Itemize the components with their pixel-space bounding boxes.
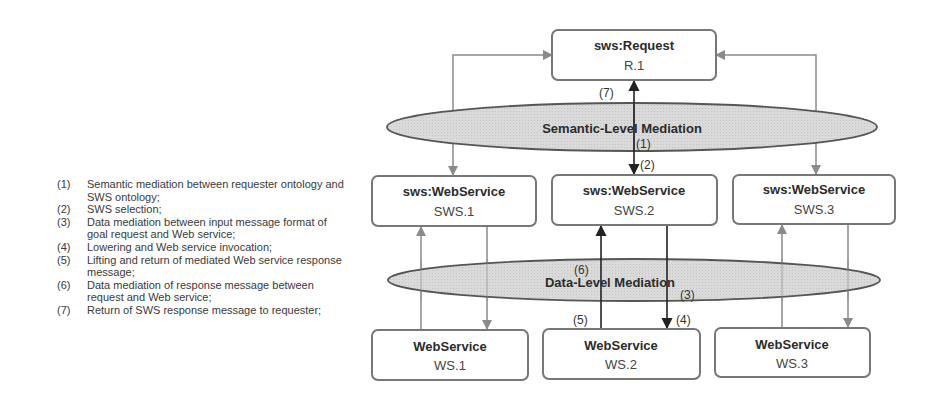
sws-title: sws:WebService [403, 184, 505, 199]
semantic-mediation-label: Semantic-Level Mediation [542, 121, 702, 136]
ws-id: WS.2 [605, 357, 637, 372]
ws-title: WebService [584, 338, 657, 353]
step-label-5: (5) [573, 313, 588, 327]
ws-title: WebService [755, 337, 828, 352]
step-label-1: (1) [636, 137, 651, 151]
sws-id: SWS.2 [614, 203, 654, 218]
step-label-4: (4) [676, 313, 691, 327]
ws-node-2: WebService WS.2 [543, 329, 700, 379]
sws-node-2: sws:WebService SWS.2 [552, 175, 717, 225]
ws-node-3: WebService WS.3 [715, 328, 870, 377]
mediation-diagram: sws:Request R.1 sws:WebService SWS.1 sws… [0, 0, 948, 405]
sws-id: SWS.1 [434, 204, 474, 219]
sws-node-3: sws:WebService SWS.3 [733, 175, 895, 224]
sws-title: sws:WebService [583, 183, 685, 198]
step-label-6: (6) [574, 263, 589, 277]
data-mediation-label: Data-Level Mediation [545, 275, 675, 290]
sws-title: sws:WebService [763, 182, 865, 197]
request-title: sws:Request [594, 38, 675, 53]
step-label-3: (3) [680, 288, 695, 302]
ws-id: WS.1 [434, 358, 466, 373]
step-label-2: (2) [640, 158, 655, 172]
ws-node-1: WebService WS.1 [372, 330, 528, 380]
sws-node-1: sws:WebService SWS.1 [372, 176, 536, 226]
request-id: R.1 [624, 58, 644, 73]
step-label-7: (7) [599, 86, 614, 100]
ws-id: WS.3 [776, 356, 808, 371]
request-node: sws:Request R.1 [552, 30, 716, 80]
ws-title: WebService [413, 339, 486, 354]
sws-id: SWS.3 [794, 202, 834, 217]
